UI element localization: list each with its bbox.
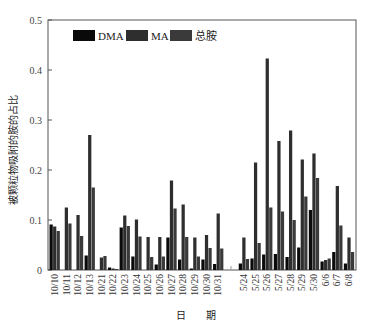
x-tick-label: 6/7 <box>332 274 342 286</box>
x-tick-label: 10/31 <box>213 274 223 296</box>
bar-DMA <box>250 259 253 271</box>
x-tick-label: 5/26 <box>262 274 272 291</box>
bar-MA <box>324 260 327 270</box>
x-tick-label: 10/24 <box>132 274 142 296</box>
bar-MA <box>76 215 79 270</box>
x-tick-label: 10/27 <box>167 274 177 296</box>
bar-MA <box>277 141 280 270</box>
bar-总胺 <box>57 231 60 270</box>
bar-总胺 <box>150 257 153 270</box>
bar-DMA <box>178 260 181 271</box>
bar-DMA <box>120 228 123 271</box>
bar-MA <box>312 154 315 271</box>
bar-总胺 <box>328 259 331 271</box>
bar-DMA <box>131 257 134 271</box>
bar-MA <box>135 220 138 271</box>
bar-总胺 <box>257 243 260 270</box>
x-tick-label: 6/8 <box>344 274 354 286</box>
bar-DMA <box>85 256 88 271</box>
bar-DMA <box>108 268 111 271</box>
bar-总胺 <box>173 209 176 271</box>
x-tick-label: 10/12 <box>73 274 83 296</box>
bar-DMA <box>201 260 204 271</box>
bar-DMA <box>309 210 312 270</box>
x-tick-label: 5/30 <box>309 274 319 291</box>
x-tick-label: 5/29 <box>297 274 307 291</box>
bar-MA <box>205 235 208 270</box>
bar-MA <box>193 238 196 271</box>
y-tick-label: 0.3 <box>30 115 43 126</box>
x-tick-label: 6/6 <box>321 274 331 286</box>
bar-DMA <box>50 225 53 271</box>
bar-chart: 00.10.20.30.40.5 10/1010/1110/1210/1310/… <box>0 0 370 327</box>
bar-DMA <box>155 265 158 271</box>
x-tick-label: 10/30 <box>202 274 212 296</box>
bar-总胺 <box>138 237 141 271</box>
legend-swatch-DMA <box>73 30 95 41</box>
bar-MA <box>170 181 173 271</box>
bar-MA <box>147 237 150 270</box>
bar-DMA <box>190 269 193 271</box>
bar-DMA <box>262 255 265 271</box>
bar-总胺 <box>269 208 272 271</box>
legend-label-DMA: DMA <box>98 30 124 42</box>
x-tick-label: 5/24 <box>239 274 249 291</box>
y-axis: 00.10.20.30.40.5 <box>30 15 53 276</box>
x-tick-label: 10/25 <box>143 274 153 296</box>
y-tick-label: 0.5 <box>30 15 43 26</box>
bar-MA <box>123 216 126 271</box>
x-tick-label: 10/29 <box>190 274 200 296</box>
bar-总胺 <box>281 212 284 271</box>
y-tick-label: 0 <box>37 265 42 276</box>
bar-DMA <box>274 254 277 270</box>
bar-总胺 <box>246 259 249 270</box>
x-tick-label: 10/11 <box>62 274 72 296</box>
bar-总胺 <box>208 248 211 270</box>
bar-MA <box>242 238 245 271</box>
y-tick-label: 0.4 <box>30 65 43 76</box>
bar-MA <box>336 186 339 270</box>
y-axis-title: 被颗粒物吸附的胺的占比 <box>7 95 19 205</box>
bar-MA <box>254 163 257 271</box>
bars <box>50 59 355 271</box>
bar-总胺 <box>316 178 319 270</box>
bar-DMA <box>297 248 300 271</box>
bar-MA <box>100 258 103 271</box>
bar-总胺 <box>185 237 188 270</box>
bar-MA <box>301 160 304 271</box>
x-tick-label: 10/22 <box>108 274 118 296</box>
bar-总胺 <box>293 220 296 270</box>
bar-DMA <box>166 238 169 271</box>
bar-总胺 <box>92 188 95 271</box>
x-tick-label: 5/27 <box>274 274 284 291</box>
bar-总胺 <box>304 197 307 271</box>
bar-MA <box>111 269 114 271</box>
bar-MA <box>65 208 68 271</box>
x-tick-label: 10/13 <box>85 274 95 296</box>
bar-DMA <box>285 257 288 270</box>
bar-总胺 <box>162 257 165 271</box>
bar-DMA <box>213 264 216 270</box>
bar-MA <box>158 237 161 270</box>
bar-总胺 <box>339 226 342 271</box>
bar-总胺 <box>220 249 223 271</box>
x-tick-label: 10/28 <box>178 274 188 296</box>
bar-DMA <box>344 264 347 271</box>
y-tick-label: 0.2 <box>30 165 43 176</box>
x-tick-label: 10/23 <box>120 274 130 296</box>
bar-MA <box>347 238 350 271</box>
bar-MA <box>182 205 185 271</box>
bar-DMA <box>320 262 323 271</box>
bar-MA <box>217 214 220 271</box>
bar-总胺 <box>351 252 354 270</box>
bar-DMA <box>239 264 242 271</box>
bar-MA <box>88 135 91 270</box>
bar-MA <box>53 227 56 271</box>
x-tick-label: 5/25 <box>251 274 261 291</box>
legend-label-MA: MA <box>151 30 169 42</box>
x-tick-label: 10/21 <box>97 274 107 296</box>
x-axis: 10/1010/1110/1210/1310/2110/2210/2310/24… <box>50 274 354 296</box>
bar-总胺 <box>115 269 118 270</box>
x-tick-label: 10/10 <box>50 274 60 296</box>
bar-MA <box>266 59 269 271</box>
